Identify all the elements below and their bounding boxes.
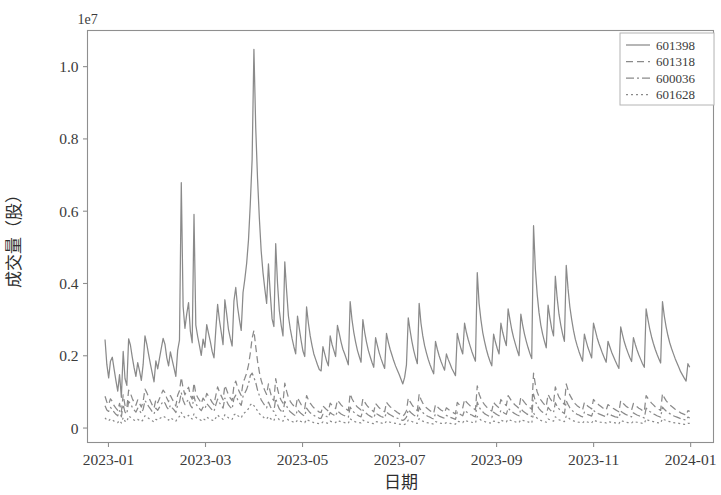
x-axis-title: 日期 xyxy=(384,473,418,492)
figure-canvas: 00.20.40.60.81.02023-012023-032023-05202… xyxy=(0,0,721,495)
y-tick-label: 0.6 xyxy=(59,203,79,220)
y-tick-label: 0.4 xyxy=(59,275,79,292)
y-axis-offset-label: 1e7 xyxy=(78,12,98,27)
legend-label-601398[interactable]: 601398 xyxy=(656,38,695,53)
x-tick-label: 2024-01 xyxy=(665,451,717,468)
legend: 601398601318600036601628 xyxy=(620,33,714,105)
legend-label-601628[interactable]: 601628 xyxy=(656,87,695,102)
volume-line-chart: 00.20.40.60.81.02023-012023-032023-05202… xyxy=(0,0,721,495)
y-axis-title: 成交量（股） xyxy=(5,186,24,288)
y-tick-label: 0 xyxy=(71,420,79,437)
y-tick-label: 0.2 xyxy=(59,347,78,364)
series-layer xyxy=(105,49,690,425)
legend-label-600036[interactable]: 600036 xyxy=(656,71,696,86)
y-tick-label: 0.8 xyxy=(59,130,79,147)
legend-label-601318[interactable]: 601318 xyxy=(656,54,695,69)
x-tick-label: 2023-07 xyxy=(374,451,426,468)
axis-labels-layer: 00.20.40.60.81.02023-012023-032023-05202… xyxy=(5,12,716,492)
x-tick-label: 2023-05 xyxy=(277,451,329,468)
x-tick-label: 2023-11 xyxy=(568,451,619,468)
x-tick-label: 2023-03 xyxy=(180,451,232,468)
axes-layer xyxy=(83,31,714,448)
series-line-601398 xyxy=(105,49,690,397)
y-tick-label: 1.0 xyxy=(59,58,79,75)
x-tick-label: 2023-01 xyxy=(83,451,135,468)
x-tick-label: 2023-09 xyxy=(471,451,523,468)
